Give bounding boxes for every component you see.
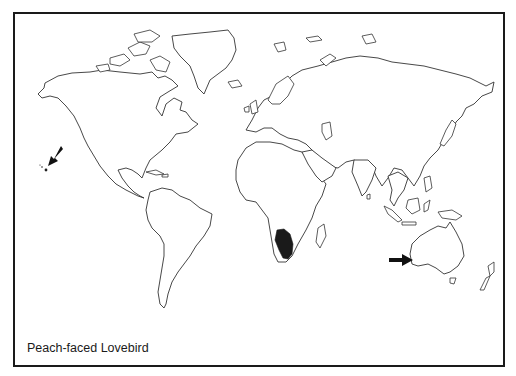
- ireland: [244, 106, 249, 112]
- sri-lanka: [367, 194, 370, 199]
- arctic-island-1: [110, 54, 130, 66]
- philippines: [424, 176, 432, 192]
- severnaya-zemlya: [362, 34, 376, 44]
- greenland: [172, 30, 236, 94]
- north-america: [38, 70, 198, 198]
- arctic-island-2: [128, 42, 150, 56]
- map-caption: Peach-faced Lovebird: [27, 341, 149, 355]
- australia-arrow-icon: [389, 254, 413, 266]
- franz-josef-land: [306, 36, 322, 42]
- tasmania: [450, 278, 456, 284]
- great-britain: [250, 100, 258, 114]
- java: [402, 222, 416, 225]
- new-zealand-north: [488, 262, 494, 276]
- svalbard: [274, 42, 286, 52]
- hawaii-islands: [45, 169, 48, 172]
- iceland: [228, 80, 242, 88]
- madagascar: [316, 224, 326, 248]
- india: [352, 160, 376, 196]
- hawaii-arrow-icon: [48, 146, 63, 166]
- borneo: [406, 198, 420, 214]
- sumatra: [384, 206, 402, 222]
- arctic-island-3: [134, 30, 160, 42]
- sulawesi: [424, 200, 430, 212]
- south-america: [146, 188, 212, 308]
- hispaniola: [162, 174, 168, 177]
- cuba: [146, 170, 164, 175]
- new-guinea: [438, 210, 462, 220]
- world-map: [0, 0, 516, 376]
- baffin-island: [150, 56, 170, 72]
- new-zealand-south: [480, 276, 490, 290]
- hawaii-islet: [41, 166, 43, 168]
- australia: [410, 222, 464, 274]
- hawaii-islet: [39, 164, 40, 165]
- indochina: [388, 172, 408, 206]
